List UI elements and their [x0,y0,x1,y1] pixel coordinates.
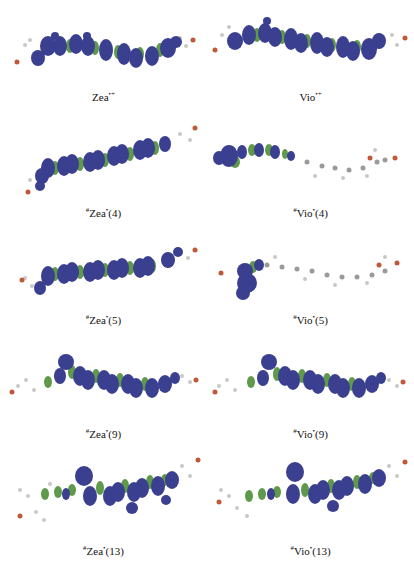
panel-zea-9: #Zea•(9) [0,337,207,450]
panel-caption: #Vio•(9) [207,427,414,440]
molecule-orbital-plot [0,120,207,200]
panel-caption: #Vio•(4) [207,206,414,219]
panel-caption: Vio•+ [207,90,414,103]
molecule-orbital-plot [207,450,414,535]
panel-vio-9: #Vio•(9) [207,337,414,450]
figure-grid: Zea•+ Vio•+ #Zea•(4) #Vio•(4) [0,0,414,568]
panel-caption: #Zea•(5) [0,313,207,326]
panel-caption: #Zea•(9) [0,427,207,440]
molecule-orbital-plot [0,342,207,422]
panel-vio-13: #Vio•(13) [207,450,414,568]
panel-vio-5: #Vio•(5) [207,225,414,337]
panel-caption: #Vio•(13) [207,544,414,557]
molecule-orbital-plot [207,5,414,70]
molecule-orbital-plot [0,450,207,535]
panel-zea-5: #Zea•(5) [0,225,207,337]
panel-vio-cation: Vio•+ [207,0,414,120]
molecule-orbital-plot [207,120,414,200]
panel-caption: Zea•+ [0,90,207,103]
panel-caption: #Vio•(5) [207,313,414,326]
molecule-orbital-plot [207,235,414,315]
molecule-orbital-plot [0,10,207,70]
panel-caption: #Zea•(4) [0,206,207,219]
panel-zea-cation: Zea•+ [0,0,207,120]
panel-zea-4: #Zea•(4) [0,120,207,225]
panel-caption: #Zea•(13) [0,544,207,557]
panel-zea-13: #Zea•(13) [0,450,207,568]
molecule-orbital-plot [0,230,207,310]
panel-vio-4: #Vio•(4) [207,120,414,225]
molecule-orbital-plot [207,342,414,422]
